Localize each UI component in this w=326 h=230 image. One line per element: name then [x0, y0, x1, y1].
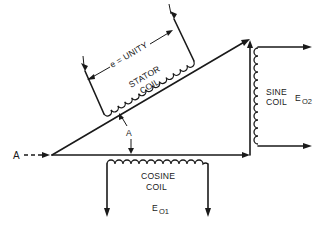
hypotenuse-vector: [52, 41, 246, 155]
sine-coil: SINE COIL E O2: [254, 44, 312, 149]
cosine-name-line1: COSINE: [141, 171, 175, 181]
cosine-output-left-arrow-icon: [104, 208, 110, 217]
vector-triangle: [52, 39, 253, 158]
arrowhead-icon: [42, 152, 50, 158]
sine-name-line2: COIL: [266, 97, 287, 107]
sine-name-line1: SINE: [266, 87, 287, 97]
stator-dimension-label: e = UNITY: [108, 40, 149, 70]
base-arrowhead-icon: [242, 152, 250, 158]
cosine-output-symbol: E: [152, 203, 158, 213]
cosine-output-subscript: O1: [159, 207, 169, 216]
resolver-diagram: A A e = UNITY: [0, 0, 326, 230]
input-label: A: [13, 150, 20, 161]
sine-output-top-arrow-icon: [303, 44, 312, 50]
stator-coil: e = UNITY STATOR COIL: [81, 4, 196, 117]
sine-output-subscript: O2: [302, 97, 312, 106]
angle-label: A: [126, 128, 132, 138]
input-arrow: A: [13, 150, 50, 161]
cosine-coil: COSINE COIL E O1: [104, 160, 211, 217]
sine-output-bottom-arrow-icon: [303, 143, 312, 149]
angle-indicator: A: [119, 113, 134, 154]
cosine-name-line2: COIL: [146, 182, 167, 192]
sine-output-symbol: E: [295, 93, 301, 103]
cosine-output-right-arrow-icon: [205, 208, 211, 217]
